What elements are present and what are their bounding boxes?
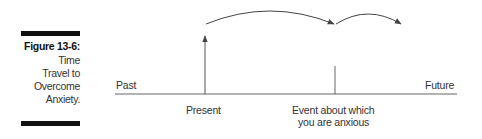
present-label: Present [186, 104, 221, 116]
timeline-diagram [0, 0, 482, 139]
event-label-line-2: you are anxious [298, 116, 369, 128]
event-label-line-1: Event about which [292, 104, 374, 116]
time-travel-arc-1 [206, 11, 334, 24]
past-label: Past [116, 79, 136, 91]
time-travel-arc-2 [336, 14, 401, 24]
future-label: Future [425, 79, 454, 91]
